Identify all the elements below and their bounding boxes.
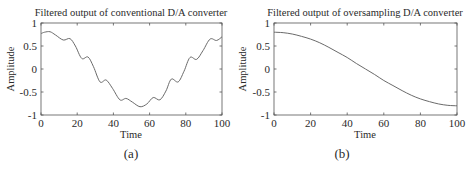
x-tick-label: 80 xyxy=(415,117,427,129)
figure-caption: (b) xyxy=(334,146,349,161)
y-tick-label: -0.5 xyxy=(253,86,271,98)
chart-panel-a: Filtered output of conventional D/A conv… xyxy=(0,0,236,169)
y-tick-label: 1 xyxy=(265,17,271,29)
x-tick-label: 20 xyxy=(72,117,84,129)
chart-title: Filtered output of oversampling D/A conv… xyxy=(267,7,463,18)
y-tick-label: 1 xyxy=(32,17,38,29)
y-tick-label: -1 xyxy=(261,109,270,121)
x-tick-label: 40 xyxy=(342,117,354,129)
y-tick-label: 0.5 xyxy=(256,40,270,52)
chart-title: Filtered output of conventional D/A conv… xyxy=(35,7,228,18)
y-tick-label: 0.5 xyxy=(23,40,37,52)
chart-b: Filtered output of oversampling D/A conv… xyxy=(236,0,471,169)
x-tick-label: 100 xyxy=(214,117,231,129)
data-line xyxy=(274,32,457,106)
y-tick-label: -1 xyxy=(28,109,37,121)
x-axis-label: Time xyxy=(354,129,376,140)
x-tick-label: 60 xyxy=(144,117,156,129)
data-line xyxy=(41,32,222,107)
x-tick-label: 80 xyxy=(180,117,192,129)
chart-a: Filtered output of conventional D/A conv… xyxy=(0,0,236,169)
x-tick-label: 40 xyxy=(108,117,120,129)
x-axis-label: Time xyxy=(120,129,142,140)
figure-caption: (a) xyxy=(124,146,138,161)
y-axis-label: Amplitude xyxy=(5,46,16,91)
y-axis-label: Amplitude xyxy=(237,46,248,91)
y-tick-label: -0.5 xyxy=(20,86,38,98)
y-axis-ticks: 10.50-0.5-1 xyxy=(20,17,222,121)
y-tick-label: 0 xyxy=(265,63,271,75)
x-axis-ticks: 020406080100 xyxy=(271,23,466,129)
x-tick-label: 100 xyxy=(449,117,466,129)
y-tick-label: 0 xyxy=(32,63,38,75)
x-tick-label: 0 xyxy=(271,117,277,129)
x-tick-label: 20 xyxy=(305,117,317,129)
x-tick-label: 0 xyxy=(38,117,44,129)
chart-panel-b: Filtered output of oversampling D/A conv… xyxy=(236,0,471,169)
x-tick-label: 60 xyxy=(378,117,390,129)
